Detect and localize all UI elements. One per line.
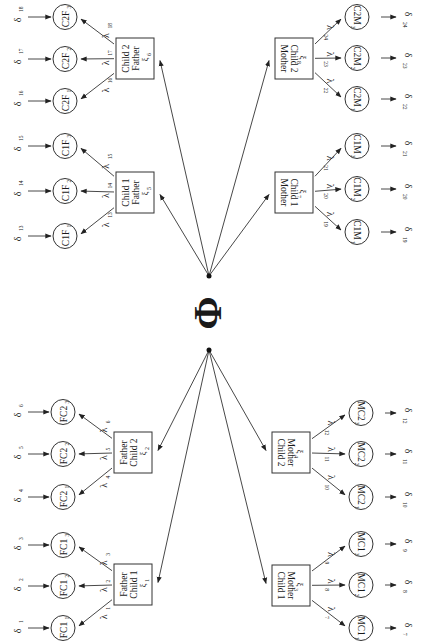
factor-label: Child 1 [289, 178, 299, 206]
lambda-symbol: λ [325, 78, 336, 83]
lambda-label-12: λ12 [324, 420, 337, 435]
factor-box-f4: ξ4MotherChild 2 [272, 432, 310, 473]
delta-label-21: δ21 [402, 141, 414, 157]
covariance-arrow-f1 [158, 350, 209, 582]
delta-symbol: δ [403, 408, 414, 413]
delta-subscript: 15 [18, 135, 24, 141]
delta-symbol: δ [403, 580, 414, 585]
covariance-arrow-f4 [209, 350, 266, 450]
factor-box-f7: ξ7Child 1Mother [275, 172, 313, 213]
delta-subscript: 5 [18, 446, 24, 449]
lambda-symbol: λ [326, 447, 337, 452]
lambda-label-18: λ18 [100, 23, 113, 38]
lambda-label-3: λ3 [98, 553, 111, 565]
xi-symbol: ξ [138, 451, 148, 455]
indicator-label: C1M [352, 134, 362, 154]
covariance-arrow-f2 [158, 350, 209, 450]
lambda-subscript: 18 [107, 23, 113, 29]
lambda-symbol: λ [98, 560, 109, 565]
delta-label-11: δ11 [402, 449, 414, 465]
loading-arrow-7 [312, 600, 345, 626]
factor-box-f8: ξ8Child 2Mother [275, 38, 313, 79]
lambda-symbol: λ [98, 587, 109, 592]
lambda-subscript: 17 [107, 50, 113, 56]
factor-label: Mother [279, 179, 289, 208]
loading-arrow-20 [315, 189, 341, 191]
factor-label: Mother [286, 439, 296, 468]
xi-subscript: 2 [144, 447, 150, 450]
indicator-subscript: 3 [354, 422, 360, 425]
indicator-subscript: 3 [66, 134, 72, 137]
lambda-subscript: 13 [107, 212, 113, 218]
lambda-subscript: 12 [324, 430, 330, 436]
delta-label-14: δ14 [12, 180, 24, 196]
delta-symbol: δ [12, 497, 23, 502]
delta-subscript: 12 [402, 418, 408, 424]
loading-arrow-2 [79, 585, 112, 586]
indicator-label: MC2 [356, 401, 366, 421]
delta-label-10: δ10 [402, 492, 414, 508]
indicator-c1m-1: C1M1 [345, 220, 369, 245]
lambda-subscript: 9 [324, 562, 330, 565]
factor-label: Child 2 [276, 438, 286, 466]
xi-symbol: ξ [138, 583, 148, 587]
lambda-symbol: λ [100, 60, 111, 65]
delta-symbol: δ [403, 12, 414, 17]
delta-subscript: 2 [18, 578, 24, 581]
lambda-subscript: 7 [324, 616, 330, 619]
indicator-c1m-2: C1M2 [345, 177, 369, 202]
phi-symbol: Φ [186, 296, 231, 329]
factor-label: Child 2 [121, 44, 131, 72]
delta-subscript: 4 [18, 489, 24, 492]
factor-label: Child 2 [129, 438, 139, 466]
diagram-svg: FatherChild 1ξ1FatherChild 2ξ2ξ3MotherCh… [0, 0, 421, 643]
indicator-label: MC1 [356, 573, 366, 593]
loading-arrow-24 [315, 19, 341, 44]
indicator-label: MC1 [356, 532, 366, 552]
factor-label: Mother [286, 572, 296, 601]
delta-subscript: 11 [402, 459, 408, 465]
loading-arrow-15 [81, 148, 114, 176]
lambda-symbol: λ [98, 614, 109, 619]
indicator-label: C1F [61, 140, 71, 156]
lambda-label-1: λ1 [98, 607, 111, 619]
xi-symbol: ξ [140, 191, 150, 195]
factor-box-f3: ξ3MotherChild 1 [272, 565, 310, 606]
delta-symbol: δ [12, 17, 23, 22]
delta-label-3: δ3 [12, 537, 24, 550]
indicator-subscript: 1 [354, 637, 360, 640]
factor-label: Mother [279, 45, 289, 74]
indicator-mc2-1: MC21 [349, 485, 373, 510]
covariance-arrow-f3 [209, 350, 266, 583]
factor-label: Father [119, 572, 129, 597]
xi-symbol: ξ [298, 189, 308, 193]
indicator-fc2-1: FC21 [51, 485, 75, 510]
phi-covariance: Φ [186, 274, 231, 353]
lambda-label-16: λ16 [100, 77, 113, 92]
delta-label-17: δ17 [12, 48, 24, 64]
indicator-c2m-1: C2M1 [345, 87, 369, 112]
indicator-mc1-1: MC11 [349, 616, 373, 641]
lambda-label-24: λ24 [323, 25, 336, 40]
lambda-subscript: 22 [323, 88, 329, 94]
lambda-symbol: λ [100, 33, 111, 38]
lambda-subscript: 8 [324, 588, 330, 591]
indicator-label: C2F [61, 11, 71, 27]
loading-arrow-21 [315, 148, 341, 176]
covariance-arrow-f8 [209, 61, 269, 276]
covariance-arrow-f7 [209, 195, 269, 276]
xi-symbol: ξ [298, 55, 308, 59]
indicator-subscript: 2 [350, 67, 356, 70]
lambda-label-4: λ4 [98, 475, 111, 487]
xi-symbol: ξ [295, 582, 305, 586]
lambda-symbol: λ [98, 455, 109, 460]
delta-label-19: δ19 [402, 227, 414, 243]
indicator-c2f-2: C2F2 [53, 47, 77, 72]
lambda-symbol: λ [326, 579, 337, 584]
lambda-symbol: λ [325, 52, 336, 57]
lambda-symbol: λ [326, 607, 337, 612]
indicator-mc1-3: MC13 [349, 532, 373, 557]
delta-subscript: 22 [402, 104, 408, 110]
lambda-symbol: λ [326, 552, 337, 557]
indicator-subscript: 1 [64, 485, 70, 488]
